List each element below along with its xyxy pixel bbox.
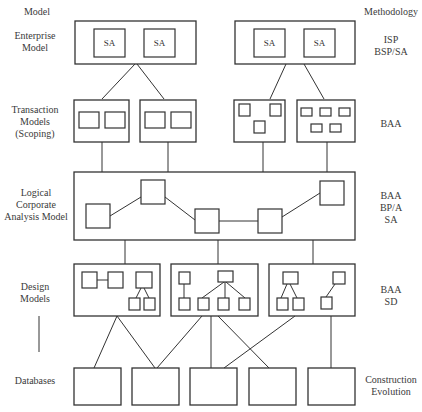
subject-area-label: SA <box>154 38 166 48</box>
design-database-connectors <box>94 316 331 368</box>
transaction-model-3 <box>234 100 285 142</box>
enterprise-transaction-connectors <box>102 64 324 99</box>
design-model-3 <box>269 264 355 316</box>
database-box <box>249 368 296 405</box>
databases <box>74 368 355 405</box>
transaction-model-1 <box>74 100 129 142</box>
transaction-model-4 <box>297 100 355 142</box>
database-box <box>74 368 121 405</box>
design-model-1 <box>74 264 160 316</box>
design-model-2 <box>171 264 258 316</box>
subject-area-label: SA <box>264 38 276 48</box>
transaction-model-2 <box>140 100 196 142</box>
enterprise-model-1: SA SA <box>75 21 196 64</box>
logical-corporate-analysis-model <box>74 172 355 240</box>
transaction-logical-connectors <box>102 142 327 172</box>
enterprise-model-2: SA SA <box>235 21 355 64</box>
database-box <box>308 368 355 405</box>
subject-area-label: SA <box>104 38 116 48</box>
subject-area-label: SA <box>314 38 326 48</box>
logical-design-connectors <box>125 240 313 264</box>
diagram-canvas: SA SA SA SA <box>0 0 422 412</box>
database-box <box>190 368 237 405</box>
database-box <box>132 368 179 405</box>
